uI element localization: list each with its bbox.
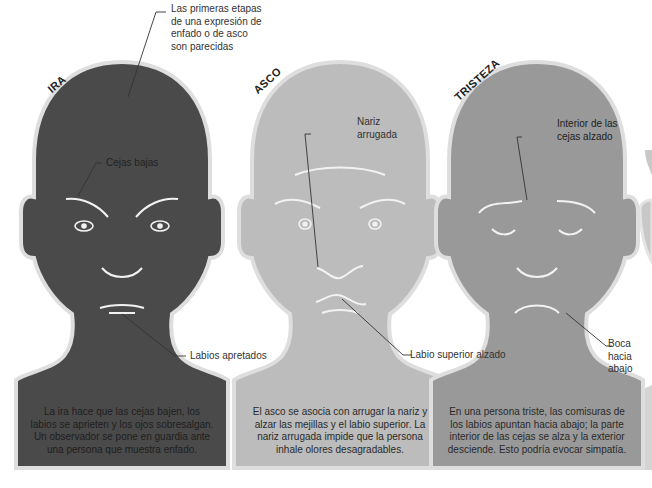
description-tristeza: En una persona triste, las comisuras de … bbox=[437, 406, 637, 456]
annotation-labios-apretados: Labios apretados bbox=[190, 350, 267, 363]
annotation-labio-superior-alzado: Labio superior alzado bbox=[410, 349, 506, 362]
annotation-nariz-arrugada: Nariz arrugada bbox=[357, 116, 397, 141]
emotions-diagram: IRA ASCO TRISTEZA Las primeras etapas de… bbox=[0, 0, 652, 488]
description-asco: El asco se asocia con arrugar la nariz y… bbox=[234, 406, 446, 456]
description-ira: La ira hace que las cejas bajen, los lab… bbox=[20, 406, 224, 456]
annotation-early-stages: Las primeras etapas de una expresión de … bbox=[171, 3, 262, 53]
annotation-interior-cejas: Interior de las cejas alzado bbox=[557, 118, 618, 143]
annotation-cejas-bajas: Cejas bajas bbox=[106, 157, 158, 170]
annotation-boca-hacia-abajo: Boca hacia abajo bbox=[608, 338, 632, 376]
